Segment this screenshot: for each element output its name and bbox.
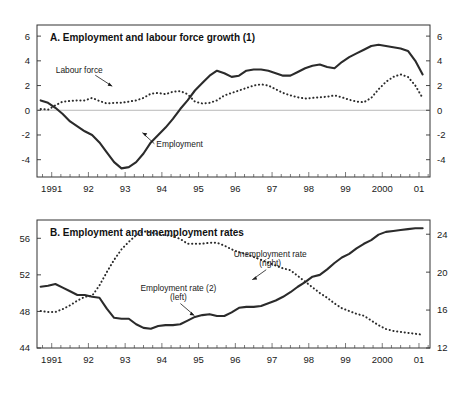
panel-a-title: A. Employment and labour force growth (1… — [50, 32, 255, 43]
annotation-labour-force: Labour force — [56, 65, 103, 75]
y-axis-label-left: 2 — [25, 80, 30, 91]
series-unemployment-rate — [41, 231, 423, 334]
y-axis-label-right: -4 — [437, 154, 445, 165]
y-axis-label-left: -2 — [22, 129, 30, 140]
x-axis-label: 96 — [230, 354, 241, 365]
y-axis-label-left: 6 — [25, 31, 30, 42]
plot-frame — [37, 25, 430, 177]
x-axis-label: 94 — [157, 354, 168, 365]
y-axis-label-right: 16 — [437, 304, 448, 315]
x-axis-label: 96 — [230, 183, 241, 194]
chart-panel-a: 6420-2-46420-2-4199192939495969798992000… — [0, 0, 475, 200]
chart-panel-b-svg: 5652484424201612199192939495969798992000… — [0, 196, 475, 395]
x-axis-label: 01 — [414, 354, 425, 365]
y-axis-label-left: 52 — [19, 269, 30, 280]
x-axis-label: 2000 — [372, 354, 393, 365]
x-axis-label: 92 — [83, 183, 94, 194]
y-axis-label-left: 0 — [25, 105, 30, 116]
y-axis-label-right: 0 — [437, 105, 442, 116]
y-axis-label-left: 56 — [19, 233, 30, 244]
y-axis-label-right: 4 — [437, 55, 442, 66]
y-axis-label-right: 24 — [437, 229, 448, 240]
y-axis-label-left: 44 — [19, 342, 30, 353]
annotation-unemployment-rate-axis: (right) — [259, 258, 281, 268]
y-axis-label-left: 48 — [19, 306, 30, 317]
x-axis-label: 94 — [157, 183, 168, 194]
x-axis-label: 95 — [193, 183, 204, 194]
x-axis-label: 99 — [340, 354, 351, 365]
x-axis-label: 98 — [304, 354, 315, 365]
x-axis-label: 92 — [83, 354, 94, 365]
panel-b-title: B. Employment and unemployment rates — [50, 227, 244, 238]
x-axis-label: 97 — [267, 354, 278, 365]
annotation-arrow-labour-force — [108, 82, 113, 86]
x-axis-label: 2000 — [372, 183, 393, 194]
x-axis-label: 99 — [340, 183, 351, 194]
y-axis-label-left: -4 — [22, 154, 30, 165]
figure-container: 6420-2-46420-2-4199192939495969798992000… — [0, 0, 475, 395]
annotation-employment: Employment — [156, 139, 203, 149]
y-axis-label-right: 12 — [437, 342, 448, 353]
x-axis-label: 1991 — [41, 354, 62, 365]
series-employment-rate-2- — [41, 228, 423, 329]
x-axis-label: 95 — [193, 354, 204, 365]
annotation-employment-rate-axis: (left) — [170, 292, 187, 302]
series-labour-force — [41, 74, 423, 109]
x-axis-label: 97 — [267, 183, 278, 194]
x-axis-label: 1991 — [41, 183, 62, 194]
y-axis-label-right: 6 — [437, 31, 442, 42]
annotation-arrow-employment — [142, 133, 147, 137]
chart-panel-b: 5652484424201612199192939495969798992000… — [0, 196, 475, 395]
x-axis-label: 93 — [120, 354, 131, 365]
x-axis-label: 98 — [304, 183, 315, 194]
y-axis-label-right: -2 — [437, 129, 445, 140]
y-axis-label-left: 4 — [25, 55, 30, 66]
y-axis-label-right: 2 — [437, 80, 442, 91]
x-axis-label: 93 — [120, 183, 131, 194]
chart-panel-a-svg: 6420-2-46420-2-4199192939495969798992000… — [0, 0, 475, 200]
series-employment — [41, 45, 423, 169]
x-axis-label: 01 — [414, 183, 425, 194]
y-axis-label-right: 20 — [437, 267, 448, 278]
